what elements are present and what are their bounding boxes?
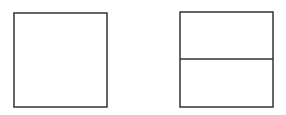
diagram-canvas [0,0,286,115]
left-square [14,13,107,107]
